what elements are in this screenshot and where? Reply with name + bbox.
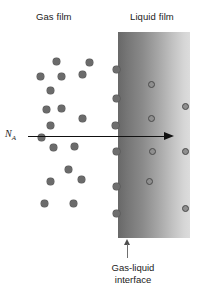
- flux-arrow-line: [28, 136, 168, 137]
- gas-molecule: [50, 144, 57, 151]
- gas-molecule: [79, 71, 86, 78]
- gas-molecule: [47, 87, 54, 94]
- interface-molecule: [113, 183, 120, 190]
- liquid-molecule: [182, 103, 189, 110]
- liquid-film-gradient-band: [118, 32, 190, 238]
- gas-molecule: [37, 73, 44, 80]
- liquid-molecule: [146, 178, 153, 185]
- interface-molecule: [113, 66, 120, 73]
- interface-caption: Gas-liquid interface: [95, 262, 171, 286]
- gas-molecule: [86, 59, 93, 66]
- liquid-film-label: Liquid film: [130, 11, 174, 22]
- two-film-diagram: Gas film Liquid film NA Gas-liquid inter…: [0, 0, 201, 298]
- interface-caption-line2: interface: [95, 274, 171, 286]
- liquid-molecule: [182, 148, 189, 155]
- gas-molecule: [53, 58, 60, 65]
- gas-film-label: Gas film: [36, 11, 72, 22]
- interface-caption-line1: Gas-liquid: [95, 262, 171, 274]
- interface-pointer-shaft: [127, 244, 128, 258]
- flux-label: NA: [5, 128, 16, 142]
- gas-molecule: [70, 200, 77, 207]
- liquid-molecule: [149, 148, 156, 155]
- gas-molecule: [58, 105, 65, 112]
- gas-molecule: [58, 73, 65, 80]
- gas-molecule: [47, 178, 54, 185]
- flux-arrow-head-icon: [164, 132, 174, 140]
- liquid-molecule: [182, 205, 189, 212]
- gas-molecule: [79, 115, 86, 122]
- gas-molecule: [71, 143, 78, 150]
- gas-molecule: [43, 106, 50, 113]
- gas-molecule: [47, 122, 54, 129]
- gas-molecule: [65, 166, 72, 173]
- liquid-molecule: [148, 81, 155, 88]
- interface-molecule: [112, 122, 119, 129]
- flux-subscript: A: [12, 134, 16, 142]
- gas-molecule: [41, 200, 48, 207]
- flux-symbol: N: [5, 128, 12, 139]
- liquid-molecule: [148, 115, 155, 122]
- gas-molecule: [78, 176, 85, 183]
- interface-molecule: [113, 95, 120, 102]
- interface-molecule: [113, 148, 120, 155]
- interface-molecule: [113, 210, 120, 217]
